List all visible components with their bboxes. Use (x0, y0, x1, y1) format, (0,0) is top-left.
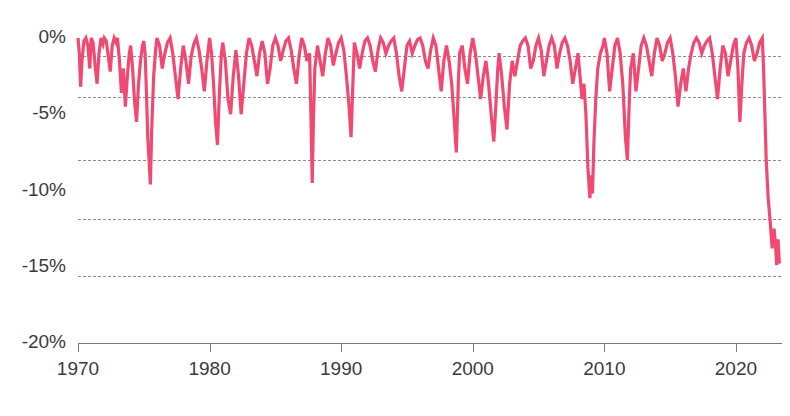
y-tick-label-1: -5% (32, 102, 66, 123)
y-tick-label-2: -10% (22, 179, 66, 200)
series-lines (78, 38, 779, 265)
x-tick-label-2: 1990 (320, 358, 362, 379)
x-tick-label-0: 1970 (57, 358, 99, 379)
axis-lines (78, 344, 782, 352)
y-tick-label-0: 0% (39, 26, 67, 47)
series-line-0 (78, 38, 779, 265)
drawdown-chart: 0%-5%-10%-15%-20% 1970198019902000201020… (0, 0, 790, 416)
x-tick-label-3: 2000 (452, 358, 494, 379)
x-tick-label-1: 1980 (188, 358, 230, 379)
x-tick-label-4: 2010 (583, 358, 625, 379)
x-axis-tick-labels: 197019801990200020102020 (57, 358, 757, 379)
x-tick-label-5: 2020 (715, 358, 757, 379)
y-tick-label-3: -15% (22, 255, 66, 276)
chart-page: 0%-5%-10%-15%-20% 1970198019902000201020… (0, 0, 790, 416)
y-tick-label-4: -20% (22, 331, 66, 352)
y-axis-tick-labels: 0%-5%-10%-15%-20% (22, 26, 66, 352)
